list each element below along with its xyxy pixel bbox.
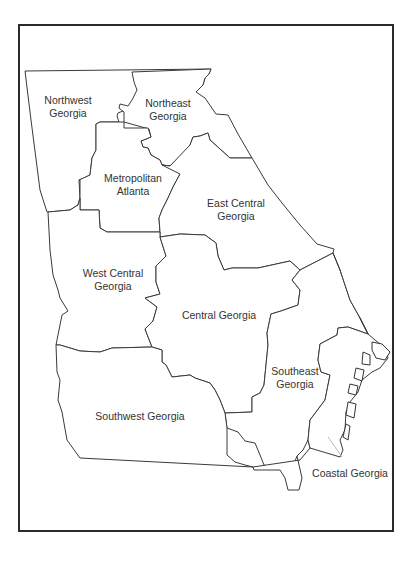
- label-northeast: NortheastGeorgia: [145, 97, 191, 122]
- coastal-island: [362, 352, 370, 365]
- coastal-island: [354, 368, 364, 381]
- label-northwest: NorthwestGeorgia: [44, 94, 91, 119]
- label-southeast: SoutheastGeorgia: [271, 365, 318, 390]
- label-southwest: Southwest Georgia: [95, 410, 184, 423]
- label-west-central: West CentralGeorgia: [83, 267, 144, 292]
- coastal-island: [346, 402, 356, 418]
- label-metro-atlanta: MetropolitanAtlanta: [104, 172, 162, 197]
- coastal-island: [348, 384, 358, 395]
- label-coastal: Coastal Georgia: [312, 467, 388, 480]
- label-central: Central Georgia: [182, 309, 256, 322]
- label-east-central: East CentralGeorgia: [207, 197, 265, 222]
